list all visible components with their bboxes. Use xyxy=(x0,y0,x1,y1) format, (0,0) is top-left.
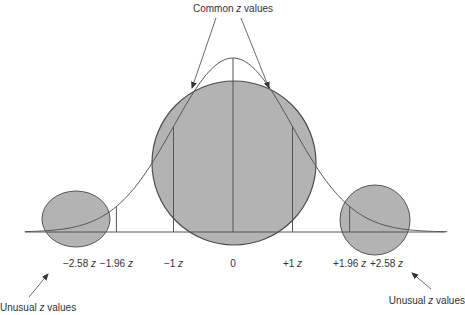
unusual-arrow-right xyxy=(412,273,431,289)
unusual-right-circle xyxy=(340,185,410,255)
unusual-left-ellipse xyxy=(42,191,110,247)
unusual-z-values-label-right: Unusual z values xyxy=(389,295,465,306)
z-tick-label: −2.58 z xyxy=(63,258,96,269)
z-tick-label: −1 z xyxy=(164,258,183,269)
z-vertical-lines xyxy=(116,58,349,232)
z-tick-label: −1.96 z xyxy=(100,258,133,269)
z-tick-label: 0 xyxy=(230,258,236,269)
z-tick-label: +1.96 z xyxy=(333,258,366,269)
z-tick-label: +1 z xyxy=(283,258,302,269)
common-circle xyxy=(152,81,316,245)
common-z-values-label: Common z values xyxy=(193,3,273,14)
z-tick-label: +2.58 z xyxy=(370,258,403,269)
normal-curve-diagram: Common z values −2.58 z−1.96 z−1 z0+1 z+… xyxy=(0,0,465,315)
z-tick-labels: −2.58 z−1.96 z−1 z0+1 z+1.96 z+2.58 z xyxy=(63,258,403,269)
unusual-z-values-label-left: Unusual z values xyxy=(0,302,76,313)
unusual-arrow-left xyxy=(29,274,48,297)
common-arrow-right xyxy=(241,18,269,88)
